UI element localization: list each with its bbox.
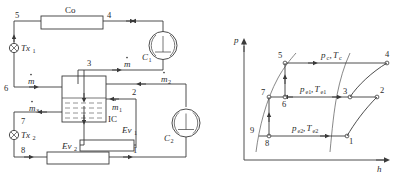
tx2-label-sub: 2 <box>33 134 36 141</box>
svg-text:p: p <box>299 84 305 94</box>
state-point-4: 4 <box>107 10 112 20</box>
svg-text:,: , <box>311 84 313 94</box>
schematic-panel: Co Tx 1 <box>0 0 204 188</box>
svg-text:e1: e1 <box>321 88 327 95</box>
svg-text:m: m <box>124 59 131 69</box>
ph-x-axis-label: h <box>377 164 382 174</box>
state-point-8: 8 <box>21 145 25 155</box>
ph-label-intermediate: p e1 , T e1 <box>299 84 326 95</box>
tx2-label: Tx <box>21 130 30 140</box>
ev2-label: Ev <box>61 141 72 151</box>
massflow-total-3: m <box>124 57 131 69</box>
ph-point-5: 5 <box>278 50 282 60</box>
ev2-label-sub: 2 <box>74 145 77 152</box>
intercooler-liquid-fill <box>65 103 102 118</box>
ph-point-4: 4 <box>385 49 390 59</box>
c2-label-sub: 2 <box>171 137 174 144</box>
svg-text:,: , <box>303 123 305 133</box>
ph-label-condensing: p c , T c <box>320 50 342 61</box>
svg-text:1: 1 <box>119 106 122 113</box>
ph-y-axis-label: p <box>233 35 239 45</box>
ph-diagram-panel: p h 5 4 p c , T c 7 6 3 2 p e1 <box>204 0 407 188</box>
state-point-1: 1 <box>133 145 137 155</box>
ph-point-2: 2 <box>380 85 384 95</box>
svg-text:m: m <box>28 76 35 86</box>
ph-point-8: 8 <box>265 138 269 148</box>
svg-text:p: p <box>320 50 326 60</box>
massflow-m1: m 1 <box>112 99 122 113</box>
state-point-3: 3 <box>87 58 91 68</box>
c1-label-sub: 1 <box>149 56 152 63</box>
ev1-inlet <box>80 130 84 145</box>
ph-point-6: 6 <box>282 99 286 109</box>
tx1-label: Tx <box>21 43 30 53</box>
ph-label-low-stage: p e2 , T e2 <box>291 123 318 134</box>
ph-point-7: 7 <box>261 87 265 97</box>
figure-root: Co Tx 1 <box>0 0 407 188</box>
svg-text:,: , <box>330 50 332 60</box>
intercooler-label: IC <box>108 114 117 124</box>
svg-text:3: 3 <box>36 107 39 114</box>
ph-compression-1-2 <box>347 97 377 136</box>
condenser-body <box>41 16 103 29</box>
svg-text:e2: e2 <box>313 127 319 134</box>
svg-text:c: c <box>339 54 342 61</box>
state-point-2: 2 <box>132 87 136 97</box>
saturation-liquid-line <box>256 53 296 152</box>
expansion-valve-tx1 <box>9 43 18 52</box>
condenser-label: Co <box>65 5 76 15</box>
evaporator-2-body <box>47 152 109 164</box>
svg-text:m: m <box>29 103 36 113</box>
ph-point-1: 1 <box>349 136 353 146</box>
expansion-valve-tx2 <box>9 130 18 139</box>
massflow-m2: m 2 <box>161 72 171 85</box>
tx1-label-sub: 1 <box>33 47 36 54</box>
ev1-label-sub: 1 <box>134 129 137 136</box>
ev1-label: Ev <box>121 125 132 135</box>
state-point-6: 6 <box>4 83 8 93</box>
massflow-total-6: m <box>28 74 35 86</box>
evaporator-1-body <box>80 140 134 151</box>
massflow-m3: m 3 <box>29 101 39 114</box>
compressor-c1 <box>149 32 177 60</box>
svg-text:m: m <box>161 74 168 84</box>
svg-text:2: 2 <box>168 78 171 85</box>
state-point-5: 5 <box>15 10 19 20</box>
ph-point-3: 3 <box>343 86 347 96</box>
state-point-7: 7 <box>21 116 25 126</box>
svg-text:m: m <box>112 102 119 112</box>
ph-point-9: 9 <box>250 125 254 135</box>
svg-text:p: p <box>291 123 297 133</box>
compressor-c2 <box>172 109 200 137</box>
